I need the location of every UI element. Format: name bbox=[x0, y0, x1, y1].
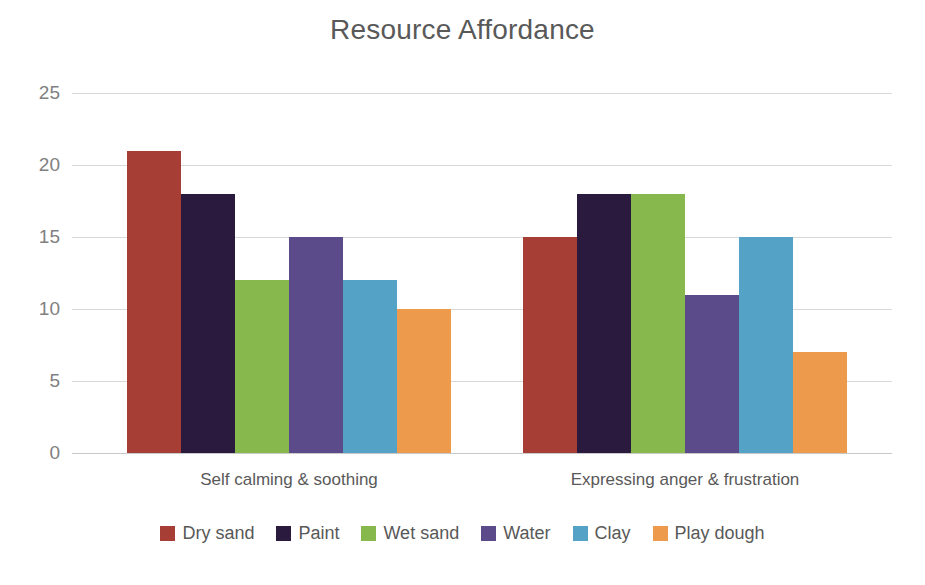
legend-label: Dry sand bbox=[182, 523, 254, 544]
y-axis-tick-label: 15 bbox=[16, 226, 60, 248]
bar-group bbox=[523, 93, 847, 453]
bar[interactable] bbox=[685, 295, 739, 453]
plot-area bbox=[72, 93, 892, 453]
legend-swatch-icon bbox=[481, 526, 496, 541]
legend-label: Wet sand bbox=[383, 523, 459, 544]
chart-title: Resource Affordance bbox=[0, 14, 925, 46]
bar[interactable] bbox=[523, 237, 577, 453]
legend-item[interactable]: Play dough bbox=[653, 523, 765, 544]
y-axis-tick-label: 10 bbox=[16, 298, 60, 320]
chart-container: Resource Affordance 0510152025 Dry sandP… bbox=[0, 0, 925, 585]
bar[interactable] bbox=[793, 352, 847, 453]
legend-label: Paint bbox=[298, 523, 339, 544]
legend-item[interactable]: Wet sand bbox=[361, 523, 459, 544]
legend-item[interactable]: Paint bbox=[276, 523, 339, 544]
gridline bbox=[72, 453, 892, 454]
bar[interactable] bbox=[739, 237, 793, 453]
legend-swatch-icon bbox=[573, 526, 588, 541]
legend-swatch-icon bbox=[160, 526, 175, 541]
bar[interactable] bbox=[127, 151, 181, 453]
y-axis-tick-label: 25 bbox=[16, 82, 60, 104]
chart-legend: Dry sandPaintWet sandWaterClayPlay dough bbox=[0, 523, 925, 544]
bar[interactable] bbox=[235, 280, 289, 453]
legend-label: Water bbox=[503, 523, 550, 544]
y-axis: 0510152025 bbox=[0, 93, 60, 453]
x-axis-category-label: Self calming & soothing bbox=[127, 470, 451, 490]
legend-swatch-icon bbox=[276, 526, 291, 541]
legend-label: Play dough bbox=[675, 523, 765, 544]
bar[interactable] bbox=[289, 237, 343, 453]
legend-item[interactable]: Clay bbox=[573, 523, 631, 544]
legend-label: Clay bbox=[595, 523, 631, 544]
y-axis-tick-label: 0 bbox=[16, 442, 60, 464]
y-axis-tick-label: 5 bbox=[16, 370, 60, 392]
legend-item[interactable]: Dry sand bbox=[160, 523, 254, 544]
bar[interactable] bbox=[397, 309, 451, 453]
bar[interactable] bbox=[577, 194, 631, 453]
legend-item[interactable]: Water bbox=[481, 523, 550, 544]
y-axis-tick-label: 20 bbox=[16, 154, 60, 176]
bar[interactable] bbox=[343, 280, 397, 453]
bar[interactable] bbox=[181, 194, 235, 453]
legend-swatch-icon bbox=[361, 526, 376, 541]
bar[interactable] bbox=[631, 194, 685, 453]
legend-swatch-icon bbox=[653, 526, 668, 541]
x-axis-category-label: Expressing anger & frustration bbox=[523, 470, 847, 490]
bar-group bbox=[127, 93, 451, 453]
